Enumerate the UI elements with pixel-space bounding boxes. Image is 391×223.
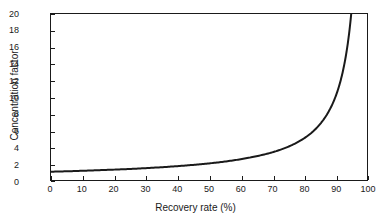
x-tick-label: 30	[130, 185, 160, 194]
x-tick-label: 50	[194, 185, 224, 194]
chart-figure: 20 18 16 14 12 10 8 6 4 2 0 0 10 20 30 4…	[0, 0, 391, 223]
plot-area	[50, 13, 368, 181]
y-tick-mark	[51, 181, 55, 182]
x-tick-label: 70	[258, 185, 288, 194]
x-tick-label: 90	[321, 185, 351, 194]
y-axis-title: Concentration factor	[9, 16, 20, 176]
y-tick-label: 0	[0, 178, 19, 187]
x-tick-label: 40	[162, 185, 192, 194]
x-tick-label: 0	[35, 185, 65, 194]
concentration-factor-curve	[51, 14, 367, 180]
x-axis-title: Recovery rate (%)	[0, 202, 391, 213]
x-tick-label: 60	[226, 185, 256, 194]
x-tick-label: 100	[353, 185, 383, 194]
x-tick-mark	[368, 176, 369, 180]
x-tick-label: 80	[289, 185, 319, 194]
x-tick-label: 10	[67, 185, 97, 194]
x-tick-label: 20	[99, 185, 129, 194]
